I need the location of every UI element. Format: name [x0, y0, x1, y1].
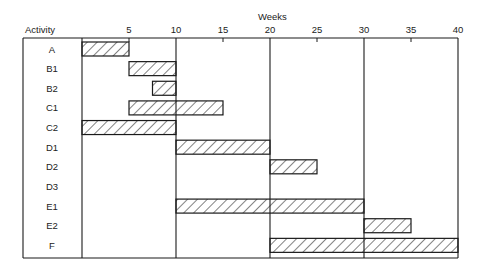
- activity-bar: [270, 160, 317, 174]
- x-tick-label: 30: [359, 24, 370, 35]
- activity-bar: [176, 199, 364, 213]
- activity-bar: [129, 101, 223, 115]
- activity-label: B2: [46, 83, 58, 94]
- activity-bar: [82, 42, 129, 56]
- x-tick-label: 35: [406, 24, 417, 35]
- activity-bar: [82, 121, 176, 135]
- x-tick-label: 5: [126, 24, 131, 35]
- activity-header: Activity: [25, 24, 55, 35]
- activity-bar: [176, 140, 270, 154]
- activity-label: D3: [46, 181, 58, 192]
- x-tick-label: 20: [265, 24, 276, 35]
- activity-label: C1: [46, 102, 58, 113]
- activity-bar: [129, 62, 176, 76]
- activity-rows: AB1B2C1C2D1D2D3E1E2F: [46, 42, 458, 252]
- x-tick-label: 25: [312, 24, 323, 35]
- activity-label: F: [49, 240, 55, 251]
- activity-label: B1: [46, 63, 58, 74]
- activity-label: C2: [46, 122, 58, 133]
- gantt-chart: Activity Weeks 510152025303540 AB1B2C1C2…: [0, 0, 483, 270]
- x-tick-label: 40: [453, 24, 464, 35]
- activity-label: D1: [46, 142, 58, 153]
- x-tick-label: 15: [218, 24, 229, 35]
- activity-bar: [270, 238, 458, 252]
- activity-label: E1: [46, 201, 58, 212]
- activity-bar: [364, 219, 411, 233]
- x-axis-ticks: 510152025303540: [126, 24, 463, 42]
- activity-bar: [153, 81, 177, 95]
- x-tick-label: 10: [171, 24, 182, 35]
- activity-label: E2: [46, 220, 58, 231]
- activity-label: D2: [46, 161, 58, 172]
- activity-label: A: [49, 44, 56, 55]
- weeks-axis-label: Weeks: [258, 11, 287, 22]
